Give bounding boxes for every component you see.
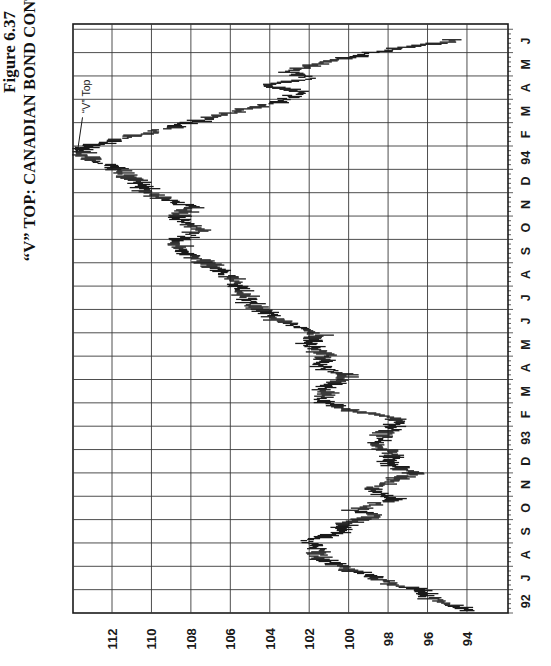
price-tick-label: 104 (263, 627, 278, 649)
time-tick-label: A (519, 83, 533, 92)
time-tick-label: S (519, 247, 533, 255)
time-tick-label: S (519, 527, 533, 535)
price-series (72, 40, 474, 611)
time-tick-label: M (519, 386, 533, 396)
time-tick-label: A (519, 270, 533, 279)
time-tick-label: J (519, 37, 533, 44)
time-tick-label: 94 (519, 151, 533, 165)
time-tick-label: D (519, 177, 533, 186)
price-tick-label: 102 (302, 628, 317, 650)
price-tick-label: 96 (421, 632, 436, 646)
time-tick-label: F (519, 410, 533, 418)
time-tick-label: A (519, 550, 533, 559)
time-tick-label: J (519, 294, 533, 301)
time-tick-label: J (519, 318, 533, 325)
price-tick-label: 100 (342, 628, 357, 650)
price-tick-label: 108 (184, 628, 199, 650)
time-tick-label: N (519, 480, 533, 489)
time-tick-label: M (519, 339, 533, 349)
price-tick-label: 98 (381, 632, 396, 646)
v-top-annotation: “V” Top (75, 80, 92, 154)
time-tick-label: 93 (519, 431, 533, 445)
time-tick-label: D (519, 457, 533, 466)
price-tick-label: 112 (105, 629, 120, 650)
time-tick-label: J (519, 574, 533, 581)
v-top-label: “V” Top (80, 80, 92, 114)
time-tick-label: 92 (519, 594, 533, 608)
time-tick-label: N (519, 200, 533, 209)
time-tick-label: O (519, 503, 533, 513)
price-tick-label: 94 (460, 631, 475, 646)
time-tick-label: M (519, 106, 533, 116)
time-tick-label: F (519, 130, 533, 138)
price-tick-label: 110 (144, 629, 159, 650)
time-tick-label: A (519, 363, 533, 372)
chart-grid (73, 24, 508, 613)
price-tick-label: 106 (223, 628, 238, 650)
chart: 94969810010210410610811011292JASOND93FMA… (0, 0, 551, 666)
time-tick-label: M (519, 59, 533, 69)
time-tick-label: O (519, 223, 533, 233)
